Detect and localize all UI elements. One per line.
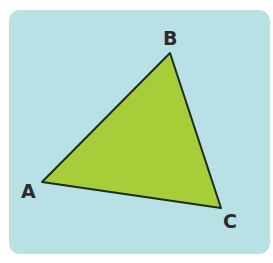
triangle-diagram: A B C: [0, 0, 273, 263]
vertex-label-b: B: [163, 27, 177, 49]
triangle-abc: [42, 53, 221, 208]
vertex-label-c: C: [223, 210, 237, 232]
vertex-label-a: A: [21, 180, 36, 202]
